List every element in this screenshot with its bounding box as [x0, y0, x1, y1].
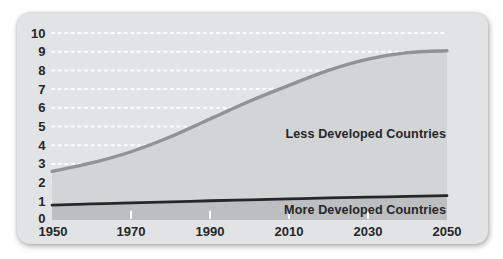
- population-growth-chart: 10 9 8 7 6 5 4 3 2 1 0 1950 1970 1990 20…: [0, 0, 503, 259]
- y-tick-9: 9: [38, 44, 45, 59]
- page: { "panel": { "background": "#e2e3e4", "g…: [0, 0, 503, 259]
- y-tick-1: 1: [38, 194, 45, 209]
- y-tick-10: 10: [31, 26, 45, 41]
- y-tick-4: 4: [38, 138, 46, 153]
- x-tick-1990: 1990: [196, 224, 225, 239]
- x-tick-2030: 2030: [354, 224, 383, 239]
- y-tick-5: 5: [38, 119, 45, 134]
- series-label-more-developed: More Developed Countries: [284, 203, 446, 217]
- x-tick-2050: 2050: [433, 224, 462, 239]
- y-tick-7: 7: [38, 82, 45, 97]
- y-tick-3: 3: [38, 156, 45, 171]
- y-tick-8: 8: [38, 63, 45, 78]
- x-tick-1970: 1970: [117, 224, 146, 239]
- x-tick-1950: 1950: [39, 224, 68, 239]
- series-label-less-developed: Less Developed Countries: [285, 127, 446, 141]
- y-tick-2: 2: [38, 175, 45, 190]
- y-tick-6: 6: [38, 100, 45, 115]
- x-tick-2010: 2010: [275, 224, 304, 239]
